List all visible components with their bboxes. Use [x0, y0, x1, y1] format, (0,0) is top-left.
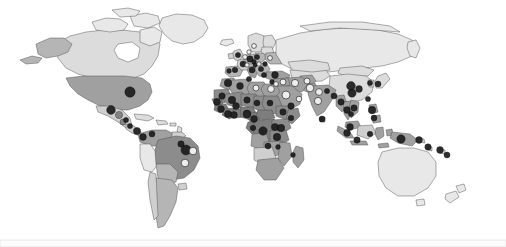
study-location-marker: Fiji: [437, 147, 444, 154]
study-location-marker: Turkey: [272, 72, 279, 79]
study-location-marker: Chad: [254, 100, 260, 106]
study-location-marker: Taiwan: [365, 96, 370, 101]
study-location-marker: Philippines: [368, 106, 376, 114]
study-location-marker: Tunisia: [246, 76, 251, 81]
study-location-marker: Malawi: [276, 145, 281, 150]
study-location-marker: Indonesia (Sumatra): [344, 130, 351, 137]
study-location-marker: Balkans: [258, 66, 263, 71]
study-location-marker: Myanmar: [338, 99, 344, 105]
country-timor: [378, 143, 389, 148]
study-location-marker: Indonesia (Java): [354, 137, 360, 143]
study-location-marker: Nicaragua: [127, 123, 132, 128]
study-location-marker: Senegal: [214, 99, 221, 106]
study-location-marker: Sweden: [252, 44, 257, 49]
study-location-marker: Algeria: [237, 83, 244, 90]
study-location-marker: Saudi Arabia: [282, 91, 290, 99]
country-antarctica-edge: [0, 240, 506, 247]
study-location-marker: India (north): [316, 89, 323, 96]
study-location-marker: Panama: [133, 127, 140, 134]
country-tasmania: [416, 199, 425, 206]
study-location-marker: China (central): [347, 82, 356, 91]
study-location-marker: Cambodia: [348, 111, 353, 116]
study-location-marker: Iran: [291, 79, 298, 86]
study-location-marker: Pakistan: [306, 84, 314, 92]
study-location-marker: Greece: [261, 72, 266, 77]
study-location-marker: Yemen: [288, 103, 294, 109]
study-location-marker: Nepal: [324, 88, 329, 93]
study-location-marker: Brazil (coast): [189, 147, 197, 155]
study-location-marker: Burkina Faso: [233, 103, 240, 110]
study-location-marker: Philippines (south): [371, 115, 377, 121]
study-location-marker: Cameroon: [251, 116, 258, 123]
study-location-marker: Zambia: [265, 143, 271, 149]
country-ireland: [228, 53, 234, 59]
study-location-marker: Japan: [375, 81, 381, 87]
study-location-marker: Romania: [263, 62, 268, 67]
study-location-marker: Ukraine: [268, 56, 273, 61]
study-location-marker: Colombia: [140, 134, 147, 141]
study-location-marker: Indonesia (Sulawesi): [367, 131, 373, 137]
study-location-marker: Libya: [253, 85, 259, 91]
country-uruguay: [178, 183, 187, 190]
study-location-marker: Mauritania: [219, 93, 225, 99]
study-location-marker: Sri Lanka: [319, 116, 325, 122]
study-location-marker: Honduras: [123, 117, 128, 122]
study-location-marker: Papua New Guinea: [397, 135, 405, 143]
study-location-marker: Mexico (south): [115, 111, 122, 118]
study-location-marker: Denmark: [247, 50, 251, 54]
study-location-marker: China (east): [356, 86, 363, 93]
study-location-marker: Tanzania: [273, 133, 281, 141]
study-location-marker: Ghana: [231, 112, 238, 119]
study-location-marker: United States: [125, 87, 135, 97]
study-location-marker: Mexico (north): [107, 106, 116, 115]
study-location-marker: Switzerland: [245, 63, 249, 67]
study-location-marker: Ethiopia: [280, 109, 286, 115]
study-location-marker: Kenya: [277, 124, 285, 132]
world-map-svg: United StatesMexico (north)Mexico (south…: [0, 0, 506, 247]
study-location-marker: Jordan: [274, 82, 279, 87]
study-location-marker: Morocco: [224, 79, 232, 87]
study-location-marker: Guinea: [218, 106, 225, 113]
study-location-marker: Hungary: [257, 62, 261, 66]
study-location-marker: Cote d'Ivoire: [224, 110, 231, 117]
study-location-marker: Afghanistan: [304, 78, 310, 84]
study-location-marker: DR Congo: [259, 127, 267, 135]
study-location-marker: New Caledonia: [444, 152, 450, 158]
study-location-marker: India (central): [314, 97, 321, 104]
study-location-marker: Italy: [249, 67, 255, 73]
study-location-marker: Portugal: [227, 69, 232, 74]
study-location-marker: Egypt: [268, 86, 275, 93]
study-location-marker: Brazil (southeast): [181, 159, 189, 167]
study-location-marker: Vanuatu: [425, 144, 431, 150]
study-location-marker: Gabon: [250, 125, 256, 131]
study-location-marker: Iraq: [280, 79, 286, 85]
study-location-marker: Sudan: [267, 100, 273, 106]
study-location-marker: Malaysia: [347, 124, 354, 131]
country-puerto-rico: [170, 123, 176, 126]
study-location-marker: Vietnam: [351, 105, 357, 111]
study-location-marker: Niger: [244, 97, 250, 103]
study-location-marker: Spain: [232, 67, 238, 73]
study-location-marker: Bangladesh: [331, 93, 337, 99]
study-location-marker: Solomon Islands: [416, 137, 423, 144]
world-map-figure: United StatesMexico (north)Mexico (south…: [0, 0, 506, 247]
study-location-marker: Oman: [296, 96, 302, 102]
study-location-marker: Poland: [254, 54, 259, 59]
study-location-marker: Madagascar: [291, 153, 296, 158]
study-location-marker: Venezuela: [149, 131, 155, 137]
study-location-marker: Nigeria: [243, 110, 251, 118]
study-location-marker: Somalia: [288, 115, 294, 121]
study-location-marker: Korea: [367, 80, 372, 85]
study-location-marker: United Kingdom: [235, 52, 240, 57]
